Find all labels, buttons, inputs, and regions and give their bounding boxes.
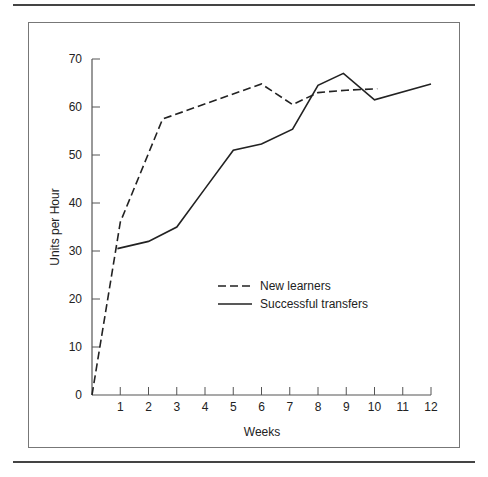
x-tick-label: 3 (173, 400, 180, 414)
line-chart: 010203040506070123456789101112 New learn… (0, 0, 488, 477)
y-tick-label: 20 (69, 292, 83, 306)
x-tick-label: 7 (286, 400, 293, 414)
x-tick-label: 2 (145, 400, 152, 414)
y-tick-label: 70 (69, 52, 83, 66)
x-tick-label: 9 (343, 400, 350, 414)
x-axis-title: Weeks (244, 425, 280, 439)
x-tick-label: 8 (315, 400, 322, 414)
y-tick-label: 60 (69, 100, 83, 114)
x-tick-label: 4 (202, 400, 209, 414)
legend: New learners Successful transfers (218, 279, 368, 311)
x-tick-label: 10 (368, 400, 382, 414)
axes: 010203040506070123456789101112 (69, 52, 438, 414)
y-tick-label: 50 (69, 148, 83, 162)
legend-label-new-learners: New learners (260, 279, 331, 293)
series-group (92, 73, 431, 395)
legend-label-successful-transfers: Successful transfers (260, 297, 368, 311)
x-tick-label: 12 (424, 400, 438, 414)
series-successful-transfers (117, 73, 431, 248)
y-tick-label: 30 (69, 244, 83, 258)
y-tick-label: 10 (69, 340, 83, 354)
x-tick-label: 5 (230, 400, 237, 414)
x-tick-label: 11 (397, 400, 410, 414)
y-tick-label: 0 (75, 388, 82, 402)
series-new-learners (92, 84, 377, 395)
x-tick-label: 1 (117, 400, 124, 414)
y-axis-title: Units per Hour (48, 188, 62, 265)
x-tick-label: 6 (258, 400, 265, 414)
y-tick-label: 40 (69, 196, 83, 210)
